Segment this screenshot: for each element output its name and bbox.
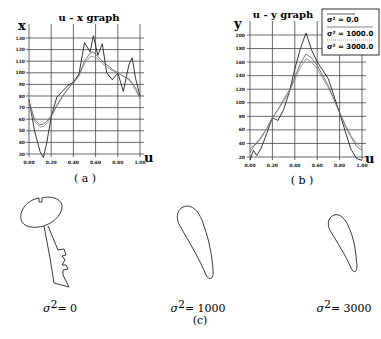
label-sigma-1000: σ2= 1000 [170,298,225,315]
series-line [29,52,140,125]
u-y-chart-title: u - y graph [253,9,314,20]
y-tick-label: 160 [236,60,245,65]
key-shape-sigma-0 [21,197,69,287]
x-tick-label: 1.00 [134,160,145,165]
series-line [250,59,362,149]
y-tick-label: 30 [19,152,25,157]
x-tick-label: 0.00 [244,163,255,168]
y-tick-label: 40 [239,141,245,146]
y-tick-label: 120 [16,47,25,52]
u-x-x-ticks: 0.000.200.400.600.801.00 [23,160,145,165]
u-y-y-ticks: 20018016014012010080604020 [236,33,245,160]
caption-b: ( b ) [291,174,314,187]
y-tick-label: 100 [236,100,245,105]
u-y-chart: u - y graph y u 200180160140120100806040… [233,9,379,187]
y-tick-label: 110 [16,59,25,64]
x-tick-label: 0.00 [23,160,34,165]
caption-a: ( a ) [74,172,96,185]
y-tick-label: 40 [19,140,25,145]
legend-entry-0: σ² = 0.0 [327,16,359,24]
y-tick-label: 80 [239,114,245,119]
u-x-series [29,36,140,158]
y-tick-label: 130 [16,36,25,41]
x-tick-label: 0.80 [334,163,345,168]
legend-entry-2: σ² = 3000.0 [327,43,373,51]
x-tick-label: 0.20 [267,163,278,168]
y-tick-label: 80 [19,94,25,99]
x-tick-label: 1.00 [356,163,367,168]
y-tick-label: 180 [236,46,245,51]
y-tick-label: 60 [239,127,245,132]
y-tick-label: 20 [239,155,245,160]
y-tick-label: 120 [236,87,245,92]
u-y-x-ticks: 0.000.200.400.600.801.00 [244,163,367,168]
y-tick-label: 70 [19,105,25,110]
x-tick-label: 0.40 [68,160,79,165]
y-tick-label: 60 [19,117,25,122]
y-tick-label: 140 [236,73,245,78]
x-tick-label: 0.40 [289,163,300,168]
u-x-chart: u - x graph x u 130120110100908070605040… [16,12,154,185]
x-tick-label: 0.60 [312,163,323,168]
x-tick-label: 0.60 [90,160,101,165]
u-x-y-ticks: 13012011010090807060504030 [16,36,25,157]
x-tick-label: 0.80 [112,160,123,165]
legend: σ² = 0.0 σ² = 1000.0 σ² = 3000.0 [322,9,379,55]
u-x-y-axis-label: x [18,18,26,33]
label-sigma-0: σ2= 0 [43,298,77,315]
legend-entry-1: σ² = 1000.0 [327,30,373,38]
x-tick-label: 0.20 [46,160,57,165]
series-line [29,36,140,158]
label-sigma-3000: σ2= 3000 [316,298,371,315]
y-tick-label: 90 [19,82,25,87]
series-line [29,57,140,128]
u-x-chart-title: u - x graph [59,12,121,23]
y-tick-label: 50 [19,128,25,133]
caption-c: (c) [193,314,208,327]
u-y-y-axis-label: y [233,16,242,31]
y-tick-label: 100 [16,70,25,75]
blob-shape-sigma-1000 [177,206,213,279]
y-tick-label: 200 [236,33,245,38]
blob-shape-sigma-3000 [328,215,357,272]
figure-canvas: u - x graph x u 130120110100908070605040… [0,0,381,339]
